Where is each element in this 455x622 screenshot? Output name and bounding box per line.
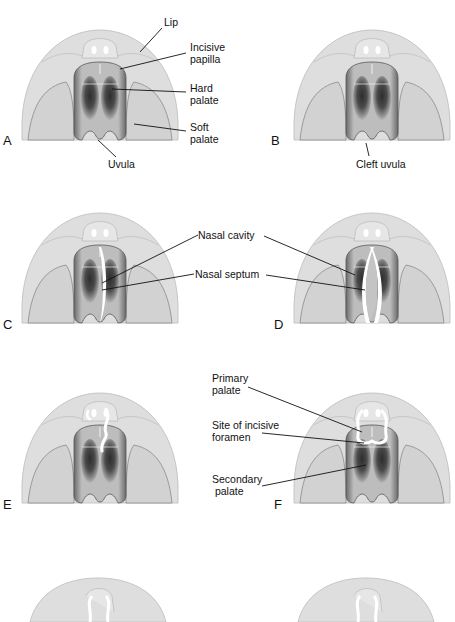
panel-b — [294, 22, 454, 147]
palate-illustration-partial — [28, 572, 188, 622]
panel-letter-b: B — [271, 133, 280, 148]
panel-letter-e: E — [3, 497, 12, 512]
panel-h-partial — [296, 572, 455, 622]
panel-d — [294, 205, 454, 330]
palate-illustration-bilateral-cleft — [294, 205, 454, 330]
panel-letter-d: D — [274, 317, 283, 332]
palate-illustration-normal — [22, 22, 182, 147]
palate-illustration-cleft-uvula — [294, 22, 454, 147]
label-nasal-septum: Nasal septum — [195, 268, 259, 280]
label-primary-palate: Primary palate — [212, 372, 248, 396]
panel-letter-a: A — [3, 133, 12, 148]
label-hard-palate: Hard palate — [190, 82, 219, 106]
panel-g-partial — [28, 572, 188, 622]
palate-illustration-partial — [296, 572, 455, 622]
panel-letter-f: F — [274, 497, 282, 512]
palate-illustration-unilateral-cleft — [22, 205, 182, 330]
label-soft-palate: Soft palate — [190, 121, 219, 145]
panel-letter-c: C — [3, 317, 12, 332]
label-site-of-incisive-foramen: Site of incisive foramen — [212, 419, 279, 443]
panel-f — [294, 385, 454, 510]
label-uvula: Uvula — [108, 158, 135, 170]
label-lip: Lip — [164, 16, 178, 28]
palate-illustration-primary-cleft-bilateral — [294, 385, 454, 510]
palate-illustration-primary-cleft-unilateral — [22, 385, 182, 510]
panel-e — [22, 385, 182, 510]
label-incisive-papilla: Incisive papilla — [190, 41, 225, 65]
label-nasal-cavity: Nasal cavity — [198, 229, 255, 241]
panel-c — [22, 205, 182, 330]
label-secondary-palate: Secondary palate — [212, 473, 262, 497]
panel-a — [22, 22, 182, 147]
label-cleft-uvula: Cleft uvula — [356, 158, 406, 170]
